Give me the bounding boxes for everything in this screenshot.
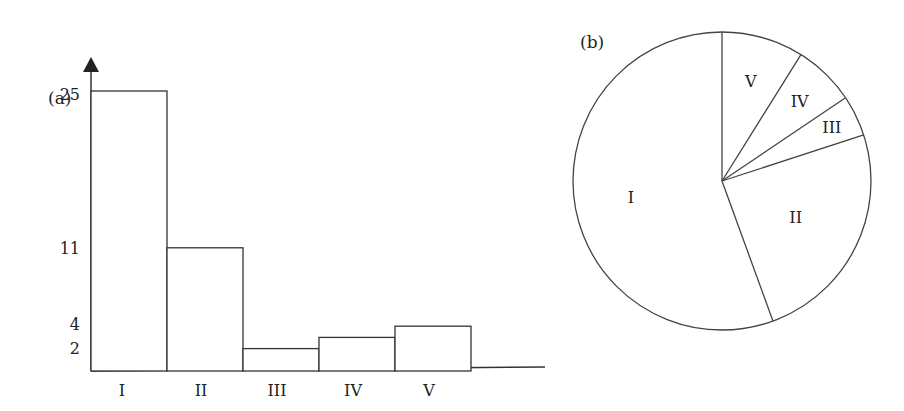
bar xyxy=(91,91,167,371)
bar xyxy=(395,326,471,371)
bar-chart: IIIIIIIVV241125 xyxy=(60,57,545,400)
bar xyxy=(167,248,243,371)
pie-slice-label: IV xyxy=(791,92,809,111)
x-tick-label: V xyxy=(422,381,435,400)
figure: (a) IIIIIIIVV241125 (b) VIVIIIIII xyxy=(0,0,904,411)
pie-slice-label: V xyxy=(744,72,757,91)
y-tick-label: 25 xyxy=(60,85,80,104)
pie-slice-label: III xyxy=(822,118,841,137)
x-tick-label: I xyxy=(119,381,125,400)
panel-label-b: (b) xyxy=(580,32,604,52)
pie-chart: VIVIIIIII xyxy=(573,32,871,330)
y-axis-arrow-icon xyxy=(83,57,99,72)
bar xyxy=(319,337,395,371)
y-tick-label: 11 xyxy=(60,239,80,258)
y-tick-label: 2 xyxy=(70,339,80,358)
x-tick-label: III xyxy=(268,381,287,400)
pie-slice-label: II xyxy=(789,208,802,227)
bar xyxy=(243,349,319,371)
pie-slice-label: I xyxy=(628,188,634,207)
x-tick-label: IV xyxy=(344,381,362,400)
x-tick-label: II xyxy=(195,381,208,400)
y-tick-label: 4 xyxy=(70,315,80,334)
chart-canvas: (a) IIIIIIIVV241125 (b) VIVIIIIII xyxy=(0,0,904,411)
